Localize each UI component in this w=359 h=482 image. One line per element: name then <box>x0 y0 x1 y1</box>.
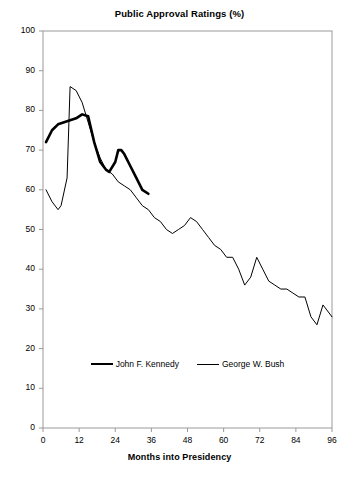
y-axis-tick-label: 20 <box>1 344 35 353</box>
legend-line-icon <box>197 364 219 365</box>
x-axis-tick-label: 0 <box>28 436 58 445</box>
legend-label: John F. Kennedy <box>116 359 179 369</box>
y-axis-tick-label: 10 <box>1 383 35 392</box>
plot-area <box>0 0 359 482</box>
x-axis-tick-label: 12 <box>64 436 94 445</box>
series-line <box>46 114 148 193</box>
x-axis-tick-label: 84 <box>281 436 311 445</box>
y-axis-tick-label: 70 <box>1 145 35 154</box>
legend-item: John F. Kennedy <box>91 359 179 369</box>
x-axis-tick-label: 48 <box>173 436 203 445</box>
y-axis-tick-label: 60 <box>1 185 35 194</box>
x-axis-label: Months into Presidency <box>0 452 359 462</box>
legend-label: George W. Bush <box>222 359 284 369</box>
legend-line-icon <box>91 363 113 365</box>
y-axis-tick-label: 80 <box>1 105 35 114</box>
x-axis-tick-label: 24 <box>100 436 130 445</box>
y-axis-tick-label: 40 <box>1 264 35 273</box>
y-axis-tick-label: 90 <box>1 66 35 75</box>
legend-item: George W. Bush <box>197 359 284 369</box>
approval-ratings-chart: Public Approval Ratings (%) 010203040506… <box>0 0 359 482</box>
y-axis-tick-label: 100 <box>1 26 35 35</box>
x-axis-tick-label: 36 <box>136 436 166 445</box>
y-axis-tick-label: 50 <box>1 225 35 234</box>
y-axis-tick-label: 30 <box>1 304 35 313</box>
chart-legend: John F. KennedyGeorge W. Bush <box>43 354 332 374</box>
x-axis-tick-label: 72 <box>245 436 275 445</box>
y-axis-tick-label: 0 <box>1 423 35 432</box>
x-axis-tick-label: 96 <box>317 436 347 445</box>
x-axis-tick-label: 60 <box>209 436 239 445</box>
